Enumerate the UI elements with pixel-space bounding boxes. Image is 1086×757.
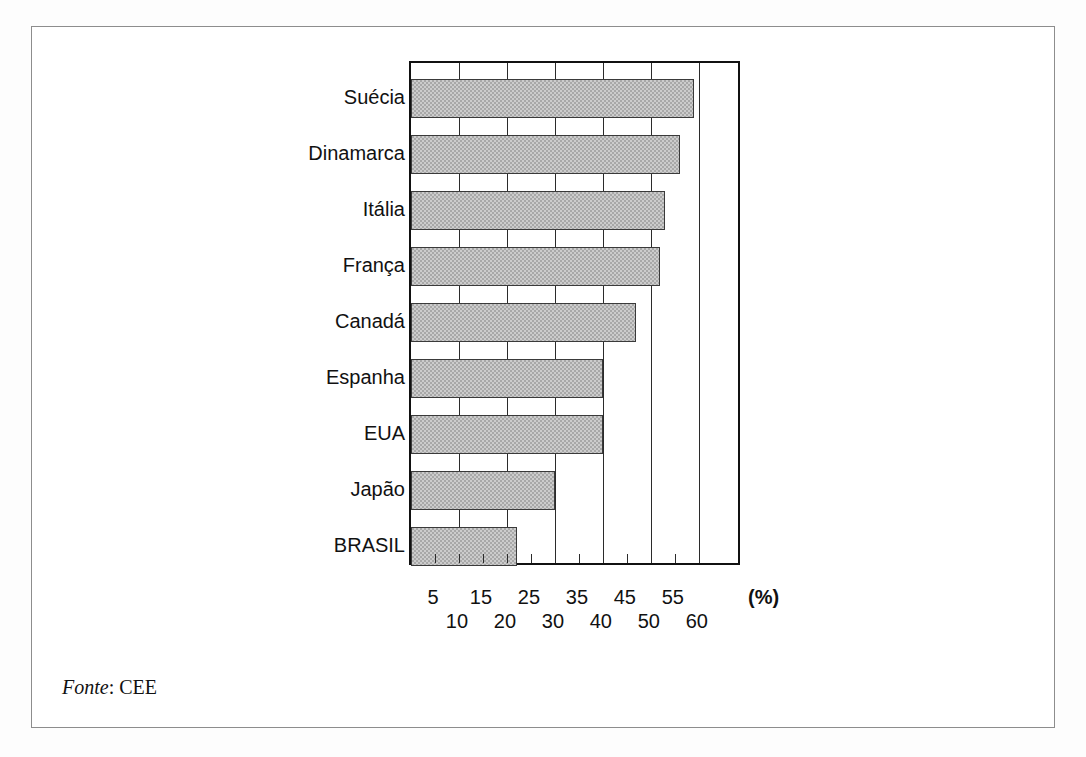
x-axis-tick: [531, 554, 532, 563]
x-tick-label: 50: [629, 610, 669, 632]
x-tick-label: 40: [581, 610, 621, 632]
category-label: França: [225, 255, 405, 275]
x-axis-tick: [699, 554, 700, 563]
x-axis-unit-label: (%): [748, 586, 779, 609]
gridline: [699, 63, 700, 563]
figure-page: SuéciaDinamarcaItáliaFrançaCanadáEspanha…: [0, 0, 1086, 757]
category-label: Dinamarca: [225, 143, 405, 163]
category-label: Canadá: [225, 311, 405, 331]
bar: [411, 191, 665, 230]
source-note-value: CEE: [119, 676, 157, 698]
x-tick-label: 5: [413, 586, 453, 608]
x-tick-label: 10: [437, 610, 477, 632]
x-axis-tick: [579, 554, 580, 563]
x-tick-labels-row-1: 51525354555: [409, 586, 749, 610]
x-axis-tick: [651, 554, 652, 563]
bar: [411, 135, 680, 174]
category-axis-labels: SuéciaDinamarcaItáliaFrançaCanadáEspanha…: [222, 61, 405, 565]
source-note-label: Fonte: [62, 676, 109, 698]
source-note: Fonte: CEE: [62, 676, 157, 699]
bar: [411, 359, 603, 398]
x-tick-label: 55: [653, 586, 693, 608]
category-label: Japão: [225, 479, 405, 499]
x-tick-label: 35: [557, 586, 597, 608]
x-tick-labels-row-2: 102030405060: [409, 610, 749, 634]
bar: [411, 79, 694, 118]
category-label: Suécia: [225, 87, 405, 107]
bar: [411, 527, 517, 566]
category-label: Espanha: [225, 367, 405, 387]
x-axis-tick: [435, 554, 436, 563]
source-note-separator: :: [109, 676, 120, 698]
x-tick-label: 20: [485, 610, 525, 632]
x-tick-label: 25: [509, 586, 549, 608]
x-axis-tick: [507, 554, 508, 563]
bar: [411, 415, 603, 454]
plot-area: [409, 61, 740, 565]
bar: [411, 471, 555, 510]
x-axis-tick: [483, 554, 484, 563]
x-axis-tick: [459, 554, 460, 563]
category-label: BRASIL: [225, 535, 405, 555]
x-axis-tick: [603, 554, 604, 563]
x-tick-label: 60: [677, 610, 717, 632]
bar: [411, 247, 660, 286]
x-tick-label: 45: [605, 586, 645, 608]
x-tick-label: 15: [461, 586, 501, 608]
category-label: Itália: [225, 199, 405, 219]
x-tick-label: 30: [533, 610, 573, 632]
category-label: EUA: [225, 423, 405, 443]
x-axis-tick: [555, 554, 556, 563]
bar-chart: SuéciaDinamarcaItáliaFrançaCanadáEspanha…: [0, 0, 1086, 757]
x-axis-tick: [627, 554, 628, 563]
x-axis-tick: [675, 554, 676, 563]
bar: [411, 303, 636, 342]
